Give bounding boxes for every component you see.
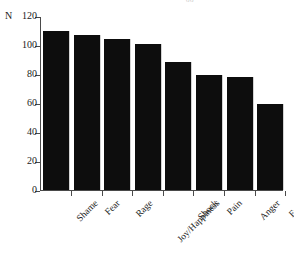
- y-tick-label: 100: [22, 39, 37, 51]
- x-tick-mark: [71, 191, 72, 196]
- bar: [135, 44, 161, 190]
- y-tick-label: 20: [27, 155, 37, 167]
- bar: [74, 35, 100, 190]
- y-tick-label: 0: [32, 184, 37, 196]
- x-axis-label: Rage: [134, 198, 156, 220]
- x-tick-mark: [102, 191, 103, 196]
- bar-chart-figure: oo N 020406080100120 ShameFearRageJoy/Ha…: [0, 0, 294, 264]
- x-axis-label: Anger: [258, 198, 283, 223]
- y-axis-line: [40, 17, 41, 191]
- bar: [104, 39, 130, 190]
- bar: [43, 31, 69, 191]
- y-tick-label: 40: [27, 126, 37, 138]
- x-axis-label: Shame: [75, 198, 101, 224]
- x-tick-mark: [163, 191, 164, 196]
- y-axis-unit-label: N: [5, 10, 12, 22]
- x-tick-mark: [193, 191, 194, 196]
- x-axis-line: [40, 190, 283, 191]
- x-tick-mark: [285, 191, 286, 196]
- x-axis-label: Fear: [103, 198, 123, 218]
- clipped-caption-fragment: oo: [186, 0, 194, 4]
- x-tick-mark: [132, 191, 133, 196]
- y-tick-label: 80: [27, 68, 37, 80]
- y-tick-label: 60: [27, 97, 37, 109]
- x-axis-label: Envy: [287, 198, 294, 220]
- plot-area: 020406080100120: [40, 17, 283, 191]
- y-tick-label: 120: [22, 10, 37, 22]
- x-axis-label: Pain: [225, 198, 245, 218]
- bar: [227, 77, 253, 190]
- bar: [165, 62, 191, 190]
- x-tick-mark: [224, 191, 225, 196]
- x-tick-mark: [255, 191, 256, 196]
- bar: [257, 104, 283, 190]
- bar: [196, 75, 222, 190]
